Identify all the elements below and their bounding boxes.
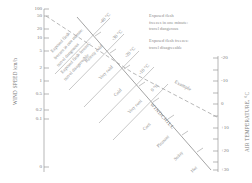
left-tick-0: 0 — [24, 164, 42, 169]
note-danger: Exposed flesh freezes in one minute: tra… — [149, 13, 188, 33]
right-tick-minus10: -10 — [221, 78, 228, 83]
left-axis-title: WIND SPEED km/h — [13, 58, 18, 105]
note-disagreeable-line2: travel disagreeable — [149, 45, 189, 52]
right-tick-0: 0 — [221, 101, 224, 106]
left-tick-20: 20 — [24, 26, 42, 31]
left-tick-0point2: 0.2 — [22, 107, 42, 112]
left-tick-0point1: 0.1 — [22, 116, 42, 121]
note-disagreeable-line1: Exposed flesh freezes: — [149, 38, 189, 45]
note-disagreeable: Exposed flesh freezes: travel disagreeab… — [149, 38, 189, 51]
right-tick-plus20: +20 — [221, 148, 229, 153]
windchill-nomogram: 100 50 20 10 5 2 1 0.5 0.2 0.1 0 WIND SP… — [0, 0, 252, 183]
left-tick-1: 1 — [24, 78, 42, 83]
right-axis-title: AIR TEMPERATURE, °C — [245, 92, 250, 152]
note-danger-line2: freezes in one minute: — [149, 20, 188, 27]
left-tick-50: 50 — [24, 13, 42, 18]
left-axis-ticks — [44, 9, 49, 167]
left-tick-100: 100 — [24, 6, 42, 11]
right-axis-ticks — [213, 58, 218, 170]
note-danger-line1: Exposed flesh — [149, 13, 188, 20]
left-tick-5: 5 — [24, 48, 42, 53]
right-tick-minus20: -20 — [221, 55, 228, 60]
right-tick-plus30: +30 — [221, 167, 229, 172]
right-tick-plus10: +10 — [221, 125, 229, 130]
left-tick-0point5: 0.5 — [22, 91, 42, 96]
note-danger-line3: travel dangerous — [149, 26, 188, 33]
left-tick-10: 10 — [24, 35, 42, 40]
left-tick-2: 2 — [24, 65, 42, 70]
